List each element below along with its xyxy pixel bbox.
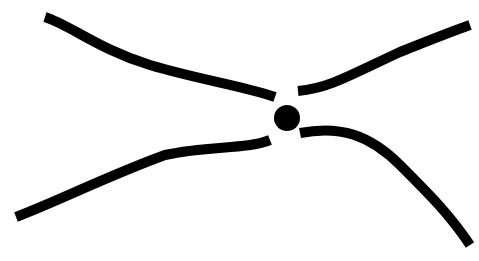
center-node	[274, 105, 300, 131]
upper-right-curve	[298, 25, 470, 91]
curves-group	[16, 17, 470, 245]
junction-diagram	[0, 0, 479, 261]
lower-left-curve	[16, 140, 270, 217]
lower-right-curve	[300, 130, 470, 245]
upper-left-curve	[45, 17, 275, 97]
